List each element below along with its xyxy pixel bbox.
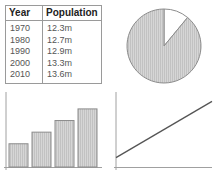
table-header-divider <box>6 20 101 21</box>
table-cell-population: 12.7m <box>47 35 72 45</box>
line-series <box>116 101 212 157</box>
table-column-divider <box>42 6 43 83</box>
pie-slice <box>127 9 201 83</box>
bar-chart <box>0 88 110 177</box>
table-header-population: Population <box>46 7 98 18</box>
bar <box>55 121 74 167</box>
table-cell-population: 13.6m <box>47 69 72 79</box>
table-cell-population: 12.3m <box>47 23 72 33</box>
bar <box>32 132 51 167</box>
bar <box>9 144 28 167</box>
table-cell-year: 1990 <box>10 46 30 56</box>
table-cell-year: 2000 <box>10 58 30 68</box>
table-cell-population: 12.9m <box>47 46 72 56</box>
table-cell-year: 1970 <box>10 23 30 33</box>
line-chart <box>110 88 219 177</box>
table-header-year: Year <box>9 7 30 18</box>
table-cell-year: 2010 <box>10 69 30 79</box>
population-table: Year Population 197012.3m198012.7m199012… <box>5 5 102 84</box>
pie-chart <box>110 0 219 88</box>
bar <box>78 109 97 167</box>
table-cell-year: 1980 <box>10 35 30 45</box>
table-cell-population: 13.3m <box>47 58 72 68</box>
